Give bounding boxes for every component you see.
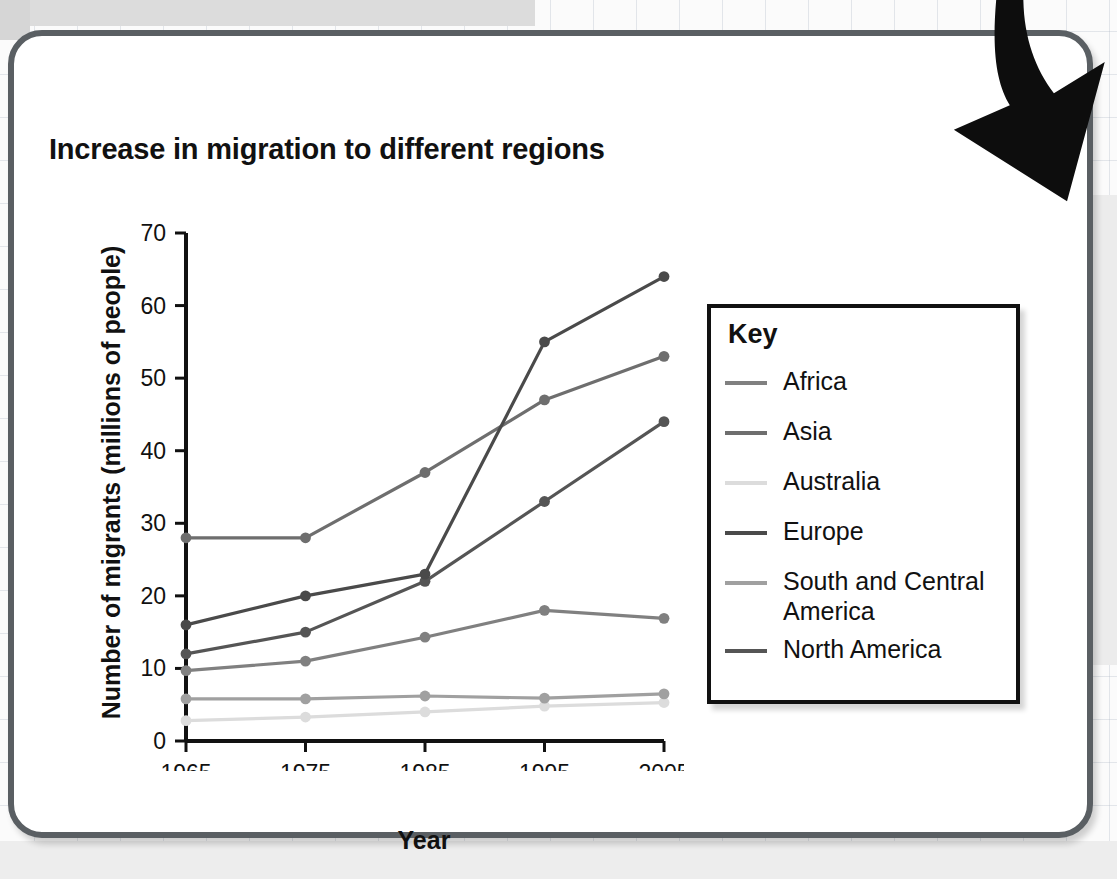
data-point <box>420 569 431 580</box>
x-tick-label: 1985 <box>399 760 450 771</box>
data-point <box>659 351 670 362</box>
data-point <box>420 632 431 643</box>
data-point <box>181 715 192 726</box>
data-point <box>300 656 311 667</box>
legend-item-list: AfricaAsiaAustraliaEuropeSouth and Centr… <box>725 364 1015 682</box>
line-chart-plot: 01020304050607019651975198519952005 <box>124 211 684 771</box>
data-point <box>300 532 311 543</box>
data-point <box>539 336 550 347</box>
series-south-and-central-america <box>181 688 670 704</box>
y-tick-label: 20 <box>140 583 166 609</box>
legend-item-label: North America <box>783 632 941 665</box>
y-tick-label: 50 <box>140 365 166 391</box>
data-point <box>181 665 192 676</box>
data-point <box>539 605 550 616</box>
series-europe <box>181 271 670 630</box>
legend-title: Key <box>728 319 778 350</box>
series-line <box>186 356 664 537</box>
legend-item-label: Asia <box>783 414 832 447</box>
y-tick-label: 40 <box>140 438 166 464</box>
legend-item[interactable]: Asia <box>725 414 1015 458</box>
legend-item[interactable]: Africa <box>725 364 1015 408</box>
y-tick-label: 70 <box>140 220 166 246</box>
x-tick-label: 1995 <box>519 760 570 771</box>
y-tick-label: 60 <box>140 293 166 319</box>
legend-color-swatch <box>725 649 767 653</box>
chart-title: Increase in migration to different regio… <box>49 133 605 166</box>
legend-item-label: Africa <box>783 364 847 397</box>
x-axis-title: Year <box>194 826 654 855</box>
data-point <box>539 395 550 406</box>
y-tick-label: 30 <box>140 510 166 536</box>
legend-color-swatch <box>725 481 767 485</box>
data-point <box>300 590 311 601</box>
legend-item-label: Australia <box>783 464 880 497</box>
y-axis-title: Number of migrants (millions of people) <box>97 203 126 763</box>
chart-card: Increase in migration to different regio… <box>8 30 1093 838</box>
data-point <box>181 619 192 630</box>
data-point <box>659 416 670 427</box>
legend-color-swatch <box>725 431 767 435</box>
legend-item-label: South and Central America <box>783 564 1015 626</box>
data-point <box>539 496 550 507</box>
series-australia <box>181 697 670 726</box>
legend-color-swatch <box>725 581 767 585</box>
x-tick-label: 1975 <box>280 760 331 771</box>
legend-item[interactable]: Europe <box>725 514 1015 558</box>
data-point <box>300 712 311 723</box>
legend-item-label: Europe <box>783 514 864 547</box>
data-point <box>420 467 431 478</box>
data-point <box>181 532 192 543</box>
legend-color-swatch <box>725 531 767 535</box>
legend-color-swatch <box>725 381 767 385</box>
data-point <box>300 627 311 638</box>
legend-item[interactable]: South and Central America <box>725 564 1015 626</box>
legend-item[interactable]: Australia <box>725 464 1015 508</box>
y-tick-label: 10 <box>140 655 166 681</box>
background-band-top-left <box>0 0 535 26</box>
legend-item[interactable]: North America <box>725 632 1015 676</box>
data-point <box>420 707 431 718</box>
data-point <box>539 693 550 704</box>
chart-legend: Key AfricaAsiaAustraliaEuropeSouth and C… <box>707 304 1020 704</box>
series-asia <box>181 351 670 543</box>
data-point <box>181 649 192 660</box>
x-tick-label: 2005 <box>638 760 684 771</box>
data-point <box>659 688 670 699</box>
data-point <box>420 691 431 702</box>
data-point <box>300 694 311 705</box>
x-tick-label: 1965 <box>160 760 211 771</box>
data-point <box>659 613 670 624</box>
y-tick-label: 0 <box>153 728 166 754</box>
data-point <box>659 271 670 282</box>
data-point <box>181 694 192 705</box>
